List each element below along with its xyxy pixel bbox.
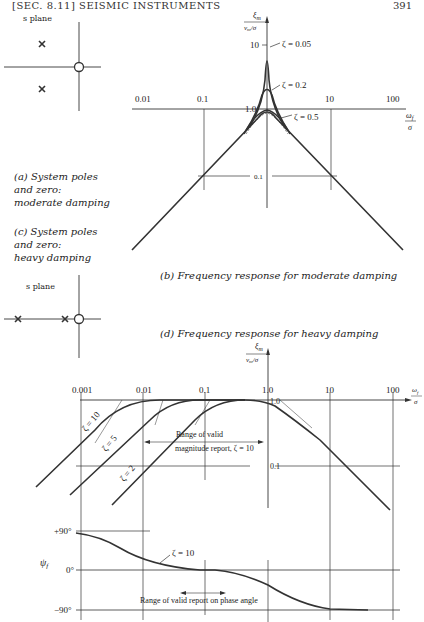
chart-d-magnitude xyxy=(36,348,412,620)
y-axis-label: ξm xyxy=(255,342,263,352)
caption-c: (c) System poles and zero: heavy damping xyxy=(14,225,97,264)
svg-text:σ: σ xyxy=(414,398,418,406)
caption-d: (d) Frequency response for heavy damping xyxy=(160,327,378,340)
series-label-z5: ζ = 5 xyxy=(100,433,119,453)
x-tick-1.0: 1.0 xyxy=(262,385,274,395)
chart-d-phase xyxy=(76,531,400,622)
x-tick-100: 100 xyxy=(386,94,400,104)
x-tick-10: 10 xyxy=(325,385,335,395)
s-plane-a xyxy=(4,22,101,111)
phase-axis-label: ψf xyxy=(40,557,49,570)
chart-d-labels: 0.001 0.01 0.1 1.0 10 100 1.0 0.1 ξm vm/… xyxy=(72,342,422,483)
annotation-phase: Range of valid report on phase angle xyxy=(140,596,258,605)
series-label-z10: ζ = 10 xyxy=(80,409,102,433)
y-tick-1.0: 1.0 xyxy=(245,104,257,114)
s-plane-label-c: s plane xyxy=(26,282,55,291)
y-tick-plus90: +90° xyxy=(54,526,72,536)
chart-b-labels: 0.01 0.1 10 100 10 1.0 0.1 ζ = 0.05 ζ = … xyxy=(135,11,416,181)
y-tick-0.1: 0.1 xyxy=(270,462,280,471)
annotation-magnitude-2: magnitude report, ζ = 10 xyxy=(175,444,254,453)
x-tick-10: 10 xyxy=(325,94,335,104)
series-label-0.2: ζ = 0.2 xyxy=(282,80,307,90)
x-tick-0.001: 0.001 xyxy=(72,385,92,395)
x-tick-0.01: 0.01 xyxy=(135,94,151,104)
x-axis-label: ωf xyxy=(406,111,415,121)
y-tick-0.1: 0.1 xyxy=(254,173,263,181)
x-axis-label: ωf xyxy=(412,386,419,395)
x-tick-0.1: 0.1 xyxy=(199,385,210,395)
phase-curve-label: ζ = 10 xyxy=(172,548,195,558)
zero-marker xyxy=(75,63,84,72)
figure-canvas: 0.01 0.1 10 100 10 1.0 0.1 ζ = 0.05 ζ = … xyxy=(0,0,424,622)
y-tick-10: 10 xyxy=(250,40,260,50)
svg-text:vm/σ: vm/σ xyxy=(246,356,259,364)
svg-text:σ: σ xyxy=(408,123,413,132)
x-tick-0.1: 0.1 xyxy=(197,94,208,104)
chart-b xyxy=(132,16,406,250)
caption-a: (a) System poles and zero: moderate damp… xyxy=(14,170,110,209)
x-tick-0.01: 0.01 xyxy=(136,385,152,395)
x-tick-100: 100 xyxy=(386,385,400,395)
caption-b: (b) Frequency response for moderate damp… xyxy=(160,269,397,282)
series-label-0.5: ζ = 0.5 xyxy=(294,112,319,122)
annotation-magnitude-1: Range of valid xyxy=(176,430,223,439)
y-tick-0: 0° xyxy=(66,565,75,575)
pole-marker xyxy=(39,41,45,92)
svg-text:vm/σ: vm/σ xyxy=(244,24,257,32)
y-axis-label: ξm xyxy=(253,11,261,21)
y-tick-minus90: −90° xyxy=(54,605,72,615)
y-tick-1.0: 1.0 xyxy=(270,397,280,406)
series-label-0.05: ζ = 0.05 xyxy=(282,39,312,49)
